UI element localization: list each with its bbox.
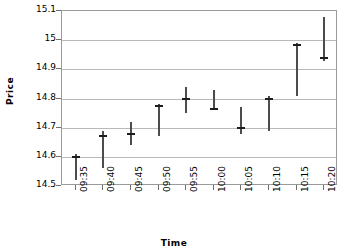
y-axis-tick-label: 15 [2, 33, 56, 43]
y-axis-tick-mark [56, 39, 61, 40]
y-axis-tick-label: 14.9 [2, 62, 56, 72]
data-point-marker [127, 133, 135, 135]
x-axis-tick-mark [130, 185, 131, 190]
y-axis-tick-mark [56, 127, 61, 128]
x-axis-tick-mark [296, 185, 297, 190]
price-time-chart: Price 15.11514.914.814.714.614.5 09:3509… [0, 0, 348, 251]
data-point-marker [237, 127, 245, 129]
x-axis-tick-label: 10:15 [300, 166, 310, 192]
y-axis-tick-label: 14.6 [2, 150, 56, 160]
x-axis-tick-mark [323, 185, 324, 190]
gridline [62, 128, 336, 129]
x-axis-tick-label: 09:40 [106, 166, 116, 192]
data-point-marker [182, 98, 190, 100]
x-axis-tick-mark [213, 185, 214, 190]
data-point-range-bar [296, 43, 298, 96]
x-axis-tick-mark [185, 185, 186, 190]
y-axis-tick-mark [56, 156, 61, 157]
y-axis-tick-mark [56, 10, 61, 11]
gridline [62, 99, 336, 100]
data-point-marker [320, 57, 328, 59]
x-axis-title: Time [0, 238, 348, 248]
x-axis-tick-label: 09:35 [79, 166, 89, 192]
x-axis-tick-label: 10:05 [244, 166, 254, 192]
data-point-range-bar [323, 17, 325, 61]
gridline [62, 40, 336, 41]
x-axis-tick-label: 10:20 [327, 166, 337, 192]
x-axis-tick-mark [268, 185, 269, 190]
x-axis-tick-label: 09:50 [162, 166, 172, 192]
y-axis-tick-label: 15.1 [2, 4, 56, 14]
x-axis-tick-label: 10:10 [272, 166, 282, 192]
x-axis-tick-mark [102, 185, 103, 190]
x-axis-tick-label: 10:00 [217, 166, 227, 192]
data-point-marker [265, 98, 273, 100]
y-axis-tick-mark [56, 185, 61, 186]
data-point-range-bar [240, 107, 242, 133]
y-axis-tick-label: 14.5 [2, 179, 56, 189]
plot-area [61, 10, 337, 185]
data-point-range-bar [158, 104, 160, 136]
x-axis-tick-mark [158, 185, 159, 190]
y-axis-tick-mark [56, 68, 61, 69]
x-axis-tick-mark [240, 185, 241, 190]
x-axis-tick-label: 09:45 [134, 166, 144, 192]
y-axis-tick-mark [56, 98, 61, 99]
data-point-range-bar [268, 96, 270, 131]
data-point-marker [72, 156, 80, 158]
data-point-marker [210, 108, 218, 110]
data-point-marker [99, 135, 107, 137]
data-point-marker [155, 105, 163, 107]
y-axis-tick-label: 14.7 [2, 121, 56, 131]
data-point-range-bar [75, 154, 77, 180]
x-axis-tick-mark [75, 185, 76, 190]
y-axis-tick-label: 14.8 [2, 92, 56, 102]
data-point-range-bar [185, 87, 187, 113]
x-axis-tick-label: 09:55 [189, 166, 199, 192]
data-point-marker [293, 44, 301, 46]
